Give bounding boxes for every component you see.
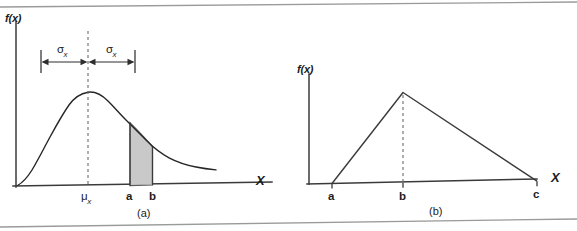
panel-a-mean-subscript: x [87,197,91,206]
panel-b-point-a-label: a [328,191,334,203]
panel-a-sigma-right-arrowhead-right [128,59,135,65]
panel-b-caption: (b) [429,206,442,217]
panel-a-graphics [13,22,272,187]
panel-a-y-axis-label: f(x) [5,13,21,24]
panel-a-caption: (a) [137,208,150,219]
panel-a-point-b-label: b [149,191,156,203]
panel-a-sigma-left-subscript: x [64,50,68,59]
panel-b-y-axis-label: f(x) [297,64,313,75]
panel-a-density-curve [18,92,217,186]
panel-a-sigma-left-arrowhead-left [42,59,49,65]
panel-b-graphics [307,74,537,189]
panel-a-sigma-right-label: σx [106,44,117,58]
figure-container: f(x) X σx σx μx a b (a) f(x) X a b c (b) [0,0,577,231]
panel-a-sigma-right-arrowhead-left [89,59,96,65]
panel-b-x-axis-label: X [551,171,560,184]
panel-a-x-axis-label: X [256,174,265,187]
page-edge-top-line [0,2,577,7]
panel-a-sigma-left-label: σx [57,44,68,58]
panel-b-point-c-label: c [533,189,539,201]
panel-a-shaded-area-a-to-b [130,123,153,186]
panel-a-point-a-label: a [126,191,132,203]
panel-b-point-b-label: b [399,191,406,203]
panel-b-triangular-density [332,93,537,184]
page-edge-bottom-line [0,219,577,227]
panel-b-x-axis [307,179,537,184]
panel-a-sigma-left-arrowhead-right [81,59,88,65]
panel-a-mean-label: μx [81,191,92,205]
panel-a-sigma-right-subscript: x [113,50,117,59]
